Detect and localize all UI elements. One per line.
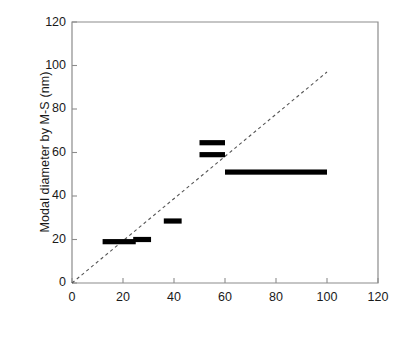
data-bar	[200, 152, 226, 157]
chart-figure: Modal diameter by M-S (nm) 120 100 80 60…	[0, 0, 411, 350]
data-bar	[200, 140, 226, 145]
data-bar	[225, 169, 327, 174]
data-bar	[164, 218, 182, 223]
reference-line-group	[72, 72, 327, 283]
plot-area	[0, 0, 411, 350]
data-bars-group	[103, 140, 327, 244]
parity-dashed-line	[72, 72, 327, 283]
data-bar	[133, 237, 151, 242]
data-bar	[103, 239, 136, 244]
